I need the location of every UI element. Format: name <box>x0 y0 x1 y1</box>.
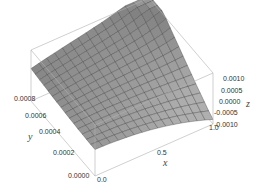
surface-plot: 0.0008 0.0006 0.0004 0.0002 0.0000 y 0.0… <box>0 0 265 193</box>
z-tick: -0.0005 <box>214 109 238 116</box>
y-tick: 0.0000 <box>68 172 90 179</box>
x-axis-label: x <box>162 157 168 168</box>
z-tick: 0.0010 <box>223 75 245 82</box>
z-tick: 0.0005 <box>221 87 243 94</box>
z-tick: -0.0010 <box>214 121 238 128</box>
y-axis-label: y <box>27 131 33 142</box>
y-tick: 0.0004 <box>39 128 61 135</box>
z-tick: 0.0000 <box>219 98 241 105</box>
y-tick: 0.0002 <box>53 149 75 156</box>
x-tick: 0.5 <box>157 149 167 156</box>
x-tick: 0.0 <box>97 176 107 183</box>
y-tick: 0.0006 <box>25 112 47 119</box>
z-axis-label: z <box>245 98 250 109</box>
y-tick: 0.0008 <box>14 95 36 102</box>
z-axis-ticks: 0.0010 0.0005 0.0000 -0.0005 -0.0010 <box>214 75 245 128</box>
